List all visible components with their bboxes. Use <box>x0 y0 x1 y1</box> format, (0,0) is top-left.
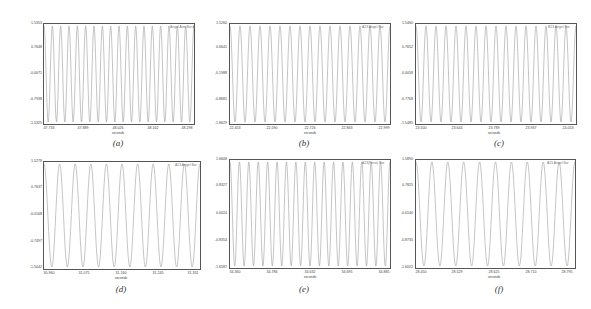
ytick-c-4: -1.5485 <box>391 121 413 125</box>
plot-area-e <box>229 159 391 269</box>
xtick-a-2: 48.026 <box>113 126 124 130</box>
xtick-c-0: 23.500 <box>416 126 427 130</box>
xtick-a-0: 47.733 <box>44 126 55 130</box>
ytick-e-1: 0.8327 <box>205 183 227 187</box>
ytick-c-3: -0.7768 <box>391 97 413 101</box>
ytick-c-0: 1.5460 <box>391 21 413 25</box>
xtick-b-4: 22.999 <box>379 126 390 130</box>
xtick-b-2: 22.726 <box>305 126 316 130</box>
ytick-d-2: -0.0168 <box>20 212 42 216</box>
xtick-f-3: 28.710 <box>526 270 537 274</box>
xlabel-e: seconds <box>304 275 317 279</box>
xtick-e-2: 34.632 <box>305 270 316 274</box>
xtick-f-2: 28.625 <box>489 270 500 274</box>
xtick-c-2: 23.789 <box>489 126 500 130</box>
ytick-a-3: -0.7938 <box>20 97 42 101</box>
ytick-b-0: 1.5260 <box>205 21 227 25</box>
xtick-c-1: 23.644 <box>452 126 463 130</box>
xtick-f-1: 28.529 <box>452 270 463 274</box>
waveform-b <box>230 24 390 124</box>
ytick-f-3: -0.8735 <box>391 238 413 242</box>
ytick-a-1: 0.7648 <box>20 45 42 49</box>
xlabel-c: seconds <box>488 131 501 135</box>
caption-f: (f) <box>495 284 504 294</box>
ytick-b-3: -0.8681 <box>205 97 227 101</box>
xtick-d-0: 30.960 <box>44 271 55 275</box>
ytick-a-0: 1.5353 <box>20 21 42 25</box>
xtick-b-1: 22.590 <box>267 126 278 130</box>
xtick-d-2: 31.160 <box>116 271 127 275</box>
xlabel-a: seconds <box>112 131 125 135</box>
ytick-f-0: 1.5890 <box>391 157 413 161</box>
plot-area-b <box>229 23 391 125</box>
ytick-e-3: -0.8354 <box>205 238 227 242</box>
waveform-e <box>230 160 390 268</box>
waveform-c <box>416 24 576 124</box>
caption-e: (e) <box>299 284 309 294</box>
xtick-f-4: 28.795 <box>562 270 573 274</box>
ytick-e-0: 1.6608 <box>205 157 227 161</box>
legend-a: Angel Arm Bar A <box>170 25 195 29</box>
caption-a: (a) <box>113 138 124 148</box>
xtick-c-4: 24.053 <box>563 126 574 130</box>
legend-d: A23 Angel Bar <box>175 163 197 167</box>
caption-c: (c) <box>494 138 504 148</box>
xtick-f-0: 28.450 <box>416 270 427 274</box>
ytick-d-0: 1.5278 <box>20 159 42 163</box>
ytick-d-1: 0.7637 <box>20 185 42 189</box>
xtick-e-4: 34.885 <box>379 270 390 274</box>
xtick-e-0: 34.360 <box>230 270 241 274</box>
legend-e: A23(Reso) Bar <box>362 161 384 165</box>
plot-area-c <box>415 23 577 125</box>
ytick-c-1: 0.7652 <box>391 45 413 49</box>
xtick-e-1: 34.786 <box>267 270 278 274</box>
xlabel-b: seconds <box>304 131 317 135</box>
ytick-a-4: -1.5325 <box>20 121 42 125</box>
caption-b: (b) <box>299 138 310 148</box>
plot-area-a <box>43 23 195 125</box>
ytick-b-4: -1.8629 <box>205 121 227 125</box>
legend-f: A25 Angel Bar <box>547 161 569 165</box>
caption-d: (d) <box>116 284 127 294</box>
xlabel-f: seconds <box>488 275 501 279</box>
xtick-a-4: 48.298 <box>182 126 193 130</box>
ytick-f-4: -1.6022 <box>391 265 413 269</box>
ytick-b-1: 0.6641 <box>205 45 227 49</box>
waveform-d <box>44 162 200 269</box>
xtick-b-3: 22.863 <box>342 126 353 130</box>
xtick-a-1: 47.889 <box>78 126 89 130</box>
ytick-c-2: -0.0058 <box>391 71 413 75</box>
xtick-d-1: 31.075 <box>79 271 90 275</box>
xlabel-d: seconds <box>115 276 128 280</box>
ytick-e-4: -1.6587 <box>205 265 227 269</box>
plot-area-f <box>415 159 576 269</box>
plot-area-d <box>43 161 201 270</box>
xtick-d-4: 31.331 <box>188 271 199 275</box>
ytick-d-4: -1.5042 <box>20 265 42 269</box>
xtick-a-3: 48.162 <box>148 126 159 130</box>
legend-b: A23 Angel Bar <box>362 25 384 29</box>
ytick-f-1: 0.7825 <box>391 183 413 187</box>
waveform-f <box>416 160 575 268</box>
xtick-c-3: 23.937 <box>526 126 537 130</box>
legend-c: B23 Angel Bar <box>548 25 570 29</box>
ytick-b-2: -0.1988 <box>205 71 227 75</box>
ytick-f-2: -0.0140 <box>391 211 413 215</box>
xtick-d-3: 31.245 <box>153 271 164 275</box>
ytick-a-2: -0.0071 <box>20 71 42 75</box>
xtick-e-3: 34.695 <box>342 270 353 274</box>
xtick-b-0: 22.453 <box>230 126 241 130</box>
ytick-d-3: -0.7497 <box>20 239 42 243</box>
waveform-a <box>44 24 194 124</box>
ytick-e-2: 0.0024 <box>205 211 227 215</box>
